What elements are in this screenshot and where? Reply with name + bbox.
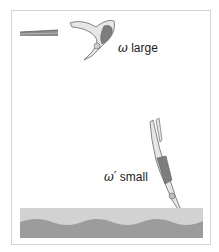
diver-straight-icon [150, 118, 180, 209]
omega-prime-small-label: ω′ small [104, 170, 148, 184]
omega-small-text: small [117, 170, 148, 184]
omega-prime-symbol: ω′ [104, 170, 117, 184]
water-surface [20, 208, 203, 238]
diagram-artwork [0, 0, 219, 252]
omega-large-label: ω large [118, 41, 158, 55]
omega-symbol: ω [118, 41, 128, 55]
diving-board-icon [20, 30, 58, 36]
diver-tucked-icon [70, 20, 115, 60]
omega-large-text: large [128, 41, 158, 55]
